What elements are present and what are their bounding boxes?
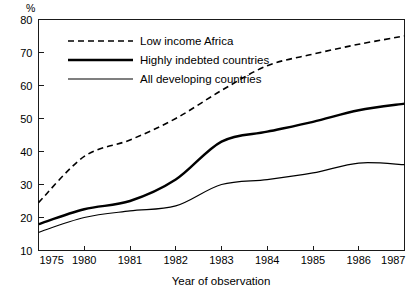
- x-tick-label: 1986: [347, 254, 371, 266]
- x-tick-label: 1985: [301, 254, 325, 266]
- y-tick-label: 60: [20, 80, 32, 92]
- x-tick-label: 1982: [164, 254, 188, 266]
- x-tick-label: 1984: [255, 254, 279, 266]
- chart-container: % 1020304050607080 197519801981198219831…: [0, 0, 418, 294]
- x-tick-label: 1983: [209, 254, 233, 266]
- legend-label-0: Low income Africa: [140, 35, 234, 47]
- y-tick-label: 50: [20, 113, 32, 125]
- x-tick-label: 1987: [381, 254, 405, 266]
- legend-label-1: Highly indebted countries: [140, 54, 269, 66]
- y-tick-label: 40: [20, 146, 32, 158]
- x-tick-label: 1981: [118, 254, 142, 266]
- y-tick-label: 20: [20, 212, 32, 224]
- y-tick-label: 70: [20, 47, 32, 59]
- legend-label-2: All developing countries: [140, 73, 262, 85]
- y-tick-label: 10: [20, 245, 32, 257]
- y-tick-label: 80: [20, 14, 32, 26]
- x-tick-label: 1980: [72, 254, 96, 266]
- y-tick-label: 30: [20, 179, 32, 191]
- x-axis-title: Year of observation: [172, 275, 271, 287]
- x-tick-label: 1975: [40, 254, 64, 266]
- y-axis-unit-label: %: [26, 2, 35, 14]
- line-chart: % 1020304050607080 197519801981198219831…: [0, 0, 418, 294]
